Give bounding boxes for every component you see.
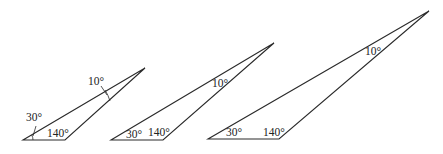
triangle-3: 30° 140° 10°: [208, 11, 429, 139]
triangle-2-angle-label-10: 10°: [212, 77, 229, 89]
triangle-2-angle-label-30: 30°: [126, 128, 143, 140]
triangle-2-outline: [111, 43, 274, 140]
triangle-3-angle-label-10: 10°: [365, 45, 382, 57]
triangle-1-angle-label-10: 10°: [88, 75, 105, 87]
triangle-3-angle-label-140: 140°: [263, 126, 285, 138]
triangle-3-outline: [208, 11, 429, 139]
triangle-1-angle-label-140: 140°: [47, 127, 69, 139]
triangle-3-angle-label-30: 30°: [226, 126, 243, 138]
triangle-1-leader-30: [33, 126, 36, 136]
triangle-1-angle-arc-10: [105, 90, 110, 101]
triangle-diagram: 30° 140° 10° 30° 140° 10° 30° 140° 10°: [0, 0, 443, 154]
triangle-2: 30° 140° 10°: [111, 43, 274, 140]
triangle-1-angle-label-30: 30°: [26, 111, 43, 123]
triangle-2-angle-label-140: 140°: [148, 126, 170, 138]
